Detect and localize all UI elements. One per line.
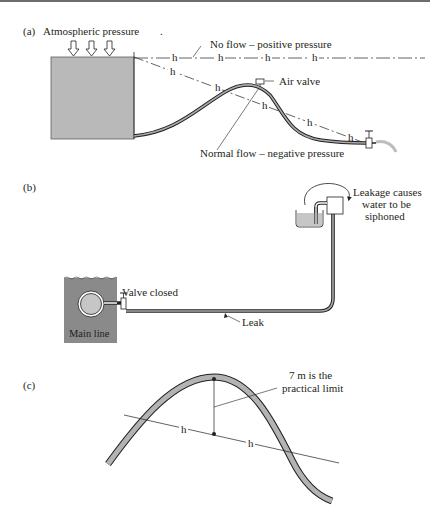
siphon-label-line1: Leakage causes — [353, 186, 422, 198]
siphon-diagram: (a) Atmospheric pressure . h h h h No fl… — [0, 0, 439, 523]
svg-text:h: h — [215, 81, 221, 93]
stray-dot: . — [160, 25, 163, 37]
main-line-pipe-inner — [81, 294, 102, 315]
reservoir-tank — [51, 57, 134, 139]
siphon-label-line3: siphoned — [365, 210, 405, 222]
panel-a: (a) Atmospheric pressure . h h h h No fl… — [23, 25, 425, 159]
tap-fixture — [327, 197, 343, 214]
crest-point — [212, 377, 216, 381]
svg-text:h: h — [312, 51, 318, 63]
basin-water — [297, 213, 322, 226]
leak-leader — [228, 316, 240, 322]
pipeline-inner — [134, 85, 366, 143]
panel-c: (c) h h 7 m is the practical limit — [23, 369, 343, 501]
hydraulic-grade-line — [124, 415, 339, 463]
hump-pipe-outer — [108, 377, 332, 501]
svg-text:h: h — [265, 51, 271, 63]
h-marker-right: h — [248, 437, 254, 449]
siphon-label-line2: water to be — [362, 198, 411, 210]
main-line-label: Main line — [69, 328, 110, 339]
valve-closed-label: Valve closed — [122, 286, 178, 298]
svg-text:h: h — [170, 65, 176, 77]
pipeline-outer — [134, 85, 366, 143]
panel-a-label: (a) — [23, 25, 36, 38]
svg-text:h: h — [307, 116, 313, 128]
outlet-valve-icon — [365, 131, 376, 148]
normal-flow-leader — [217, 88, 259, 150]
normal-flow-h-markers: h h h h h — [168, 65, 355, 143]
no-flow-label: No flow – positive pressure — [210, 38, 332, 50]
h-marker-left: h — [181, 423, 187, 435]
atmospheric-pressure-label: Atmospheric pressure — [43, 25, 139, 37]
outlet-flow — [376, 142, 396, 152]
leak-icon — [224, 313, 228, 318]
limit-label-line1: 7 m is the — [289, 369, 332, 381]
svg-text:h: h — [262, 99, 268, 111]
limit-label-line2: practical limit — [282, 382, 343, 394]
no-flow-leader — [193, 46, 201, 57]
svg-text:h: h — [218, 51, 224, 63]
panel-c-label: (c) — [23, 379, 36, 392]
no-flow-h-markers: h h h h — [170, 51, 319, 63]
air-valve-label: Air valve — [279, 75, 320, 87]
panel-b: (b) Main line Valve closed Leak — [23, 181, 422, 343]
normal-flow-label: Normal flow – negative pressure — [200, 147, 344, 159]
hump-pipe-inner — [108, 377, 332, 501]
leak-label: Leak — [242, 316, 264, 328]
pressure-arrows-icon — [68, 41, 115, 56]
svg-text:h: h — [172, 51, 178, 63]
grade-point — [212, 432, 216, 436]
panel-b-label: (b) — [23, 181, 36, 194]
